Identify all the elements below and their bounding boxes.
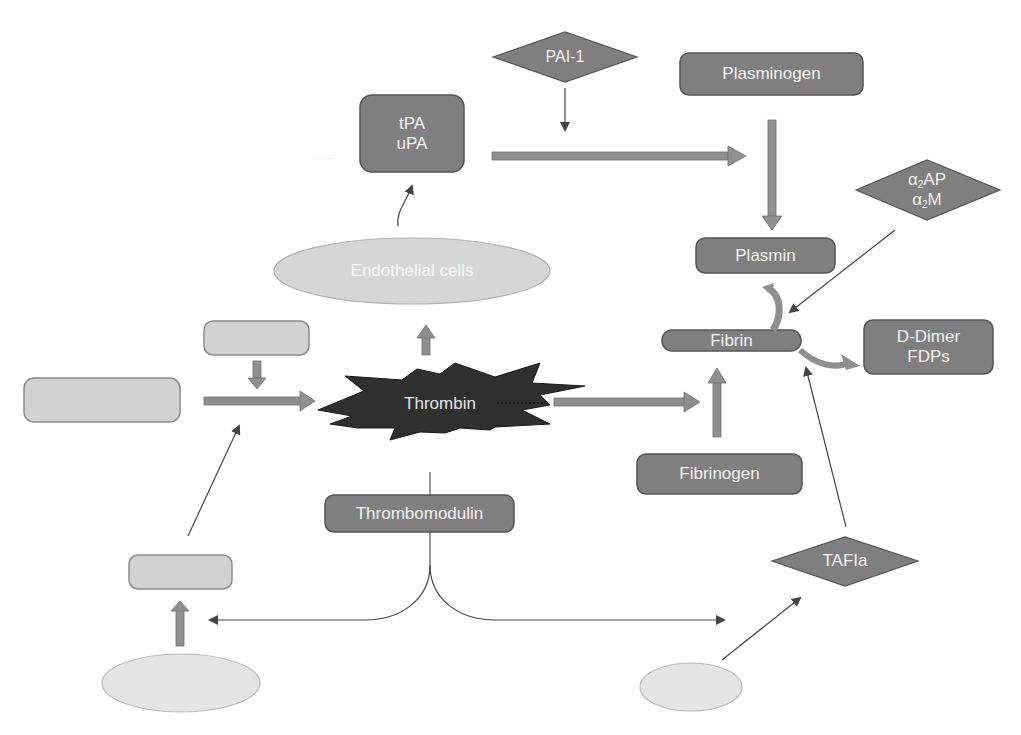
block-arrow-plasminogen-down (762, 120, 782, 230)
tafia-node (772, 537, 918, 586)
block-arrow-left-to-thrombin (204, 391, 315, 411)
block-arrow-thrombin-right (554, 392, 700, 412)
thin-arrow-thrombomodulin-left (210, 565, 430, 620)
alpha2-node (856, 160, 1000, 220)
blank-lower-left-node (129, 555, 232, 589)
faint-ghost-mark: ~~~~· (312, 154, 333, 163)
curved-arrow-ddimer-head (841, 354, 860, 370)
ddimer-node (864, 320, 993, 374)
plasminogen-node (680, 53, 863, 95)
block-arrow-tpa-right (492, 146, 746, 166)
block-arrow-thrombin-up (417, 325, 435, 355)
block-arrow-ellipse-up (171, 601, 189, 646)
thin-arrow-endothelial-to-tpa (398, 186, 412, 226)
block-arrow-small-box-down (248, 361, 266, 389)
fibrin-node (662, 330, 801, 351)
thin-arrow-thrombomodulin-right (430, 565, 724, 620)
thrombin-node (318, 363, 585, 440)
endothelial-cells-node (274, 238, 550, 304)
pai1-node (493, 32, 637, 82)
thin-arrow-lowerbox-to-left (188, 426, 239, 536)
tpa-upa-node (360, 95, 464, 172)
blank-ellipse-bottom-right-node (640, 663, 742, 711)
block-arrow-fibrinogen-up (708, 368, 726, 437)
blank-ellipse-bottom-left-node (102, 654, 260, 712)
blank-small-top-left-node (204, 321, 309, 355)
blank-large-left-node (24, 378, 180, 422)
plasmin-node (696, 238, 835, 273)
curved-arrow-plasmin-fibrin (768, 288, 779, 330)
thrombomodulin-node (325, 495, 514, 532)
curved-arrow-plasmin-head (762, 283, 774, 295)
fibrinogen-node (637, 454, 802, 494)
thin-arrow-tafia-to-fibrin (806, 368, 846, 527)
fibrinolysis-diagram: ~~~~· (0, 0, 1021, 735)
thin-arrow-ellipse-to-tafia (722, 598, 800, 660)
